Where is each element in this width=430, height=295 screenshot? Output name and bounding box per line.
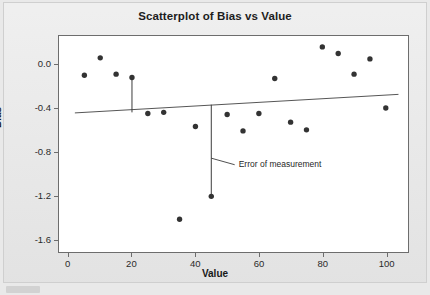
y-axis-title: Bias [0,107,3,128]
x-tick-mark [387,253,388,257]
x-tick-mark [131,253,132,257]
data-point[interactable] [82,73,87,78]
data-point[interactable] [320,44,325,49]
data-point[interactable] [304,127,309,132]
data-point[interactable] [256,111,261,116]
data-point[interactable] [193,124,198,129]
y-tick-mark [54,240,58,241]
annotation-error-of-measurement: Error of measurement [239,159,322,169]
y-tick-mark [54,152,58,153]
y-tick-label: -1.6 [5,234,51,245]
data-point[interactable] [161,110,166,115]
annotation-leader-0 [211,158,234,165]
data-point[interactable] [224,112,229,117]
data-point[interactable] [177,217,182,222]
x-tick-mark [259,253,260,257]
caption-smudge [6,286,40,293]
scatter-plot-canvas [59,36,408,252]
chart-title: Scatterplot of Bias vs Value [0,10,430,22]
data-point[interactable] [367,56,372,61]
data-point[interactable] [98,55,103,60]
data-point[interactable] [272,76,277,81]
x-tick-label: 60 [239,258,279,269]
x-tick-label: 80 [303,258,343,269]
x-tick-mark [323,253,324,257]
y-tick-mark [54,196,58,197]
x-tick-label: 20 [111,258,151,269]
regression-line [75,94,399,113]
data-point[interactable] [113,72,118,77]
data-point[interactable] [288,120,293,125]
x-tick-mark [195,253,196,257]
y-tick-mark [54,64,58,65]
y-tick-label: 0.0 [5,58,51,69]
screenshot-root: Scatterplot of Bias vs Value Bias Value … [0,0,430,295]
data-point[interactable] [383,105,388,110]
data-point[interactable] [240,128,245,133]
data-point[interactable] [209,194,214,199]
plot-area [58,35,409,253]
data-point[interactable] [351,72,356,77]
y-tick-label: -0.4 [5,102,51,113]
y-tick-mark [54,108,58,109]
x-tick-mark [68,253,69,257]
x-axis-title: Value [0,268,430,279]
data-point[interactable] [145,111,150,116]
y-tick-label: -0.8 [5,146,51,157]
data-point[interactable] [336,51,341,56]
x-tick-label: 40 [175,258,215,269]
x-tick-label: 0 [48,258,88,269]
x-tick-label: 100 [367,258,407,269]
data-point[interactable] [129,75,134,80]
y-tick-label: -1.2 [5,190,51,201]
